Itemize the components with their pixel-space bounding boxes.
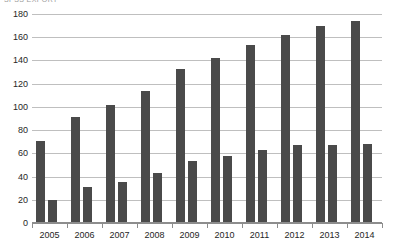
clipped-header-text: SPSS EXPORT xyxy=(4,0,58,3)
y-axis-tick-label: 40 xyxy=(2,173,28,182)
bar-group xyxy=(347,14,382,223)
bar-group xyxy=(277,14,312,223)
x-axis-tick-label: 2007 xyxy=(102,230,137,240)
y-axis-tick-label: 180 xyxy=(2,10,28,19)
y-axis: 020406080100120140160180 xyxy=(0,14,28,223)
bar xyxy=(141,91,150,223)
x-axis-tick xyxy=(32,223,33,228)
x-axis-tick xyxy=(102,223,103,228)
y-axis-tick-label: 80 xyxy=(2,126,28,135)
bar-group xyxy=(242,14,277,223)
bar xyxy=(36,141,45,223)
x-axis-tick-label: 2005 xyxy=(32,230,67,240)
bar xyxy=(328,145,337,223)
x-axis-tick-label: 2010 xyxy=(207,230,242,240)
y-axis-tick-label: 160 xyxy=(2,33,28,42)
bar xyxy=(223,156,232,223)
x-axis-tick xyxy=(137,223,138,228)
bar xyxy=(246,45,255,223)
bars-layer xyxy=(32,14,382,223)
x-axis: 2005200620072008200920102011201220132014 xyxy=(32,223,382,246)
bar xyxy=(176,69,185,223)
x-axis-tick-label: 2014 xyxy=(347,230,382,240)
x-axis-tick-label: 2011 xyxy=(242,230,277,240)
x-axis-tick-label: 2009 xyxy=(172,230,207,240)
bar xyxy=(71,117,80,223)
bar xyxy=(316,26,325,223)
y-axis-tick-label: 140 xyxy=(2,56,28,65)
bar-group xyxy=(207,14,242,223)
x-axis-tick-label: 2008 xyxy=(137,230,172,240)
bar-chart: SPSS EXPORT 020406080100120140160180 200… xyxy=(0,0,393,246)
bar xyxy=(211,58,220,223)
x-axis-tick-label: 2012 xyxy=(277,230,312,240)
bar-group xyxy=(32,14,67,223)
y-axis-tick-label: 0 xyxy=(2,219,28,228)
x-axis-tick xyxy=(172,223,173,228)
x-axis-tick xyxy=(312,223,313,228)
y-axis-tick-label: 100 xyxy=(2,103,28,112)
bar-group xyxy=(67,14,102,223)
plot-area xyxy=(32,14,382,223)
bar xyxy=(281,35,290,223)
bar xyxy=(153,173,162,223)
y-axis-tick-label: 120 xyxy=(2,80,28,89)
x-axis-tick xyxy=(67,223,68,228)
bar xyxy=(48,200,57,223)
bar xyxy=(351,21,360,223)
x-axis-tick xyxy=(382,223,383,228)
bar xyxy=(188,161,197,223)
bar xyxy=(363,144,372,223)
x-axis-tick xyxy=(277,223,278,228)
bar xyxy=(83,187,92,223)
bar xyxy=(258,150,267,223)
bar xyxy=(106,105,115,223)
x-axis-tick-label: 2006 xyxy=(67,230,102,240)
x-axis-tick xyxy=(207,223,208,228)
y-axis-tick-label: 60 xyxy=(2,149,28,158)
x-axis-tick xyxy=(347,223,348,228)
bar xyxy=(118,182,127,223)
y-axis-tick-label: 20 xyxy=(2,196,28,205)
bar-group xyxy=(102,14,137,223)
bar-group xyxy=(172,14,207,223)
x-axis-tick-label: 2013 xyxy=(312,230,347,240)
x-axis-tick xyxy=(242,223,243,228)
bar-group xyxy=(137,14,172,223)
bar xyxy=(293,145,302,223)
bar-group xyxy=(312,14,347,223)
